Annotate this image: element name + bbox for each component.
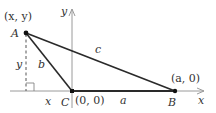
side-c-label: c	[95, 43, 101, 56]
point-c	[70, 89, 74, 93]
side-b-label: b	[38, 58, 45, 71]
y-axis-label: y	[60, 5, 68, 18]
side-a-label: a	[120, 94, 127, 107]
point-a-coord-label: (x, y)	[4, 10, 32, 23]
point-b	[173, 89, 177, 93]
point-b-label: B	[167, 96, 176, 109]
point-c-coord-label: (0, 0)	[75, 94, 105, 107]
point-b-coord-label: (a, 0)	[171, 72, 200, 85]
x-axis-label: x	[198, 94, 205, 107]
vertical-dashed-label: y	[15, 58, 23, 71]
point-a-label: A	[10, 27, 19, 40]
triangle-diagram: (x, y) A y c b y x C (0, 0) a (a, 0) B x	[0, 0, 216, 113]
point-c-label: C	[61, 96, 70, 109]
point-a	[24, 31, 29, 36]
horizontal-segment-label: x	[45, 95, 52, 108]
right-angle-marker	[26, 83, 34, 91]
